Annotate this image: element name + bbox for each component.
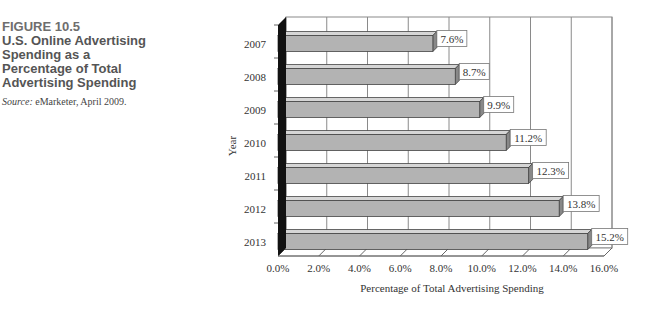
bar-top — [278, 98, 484, 102]
bar-side — [559, 197, 563, 217]
x-tick-label: 8.0% — [430, 262, 453, 274]
bar-top — [278, 32, 437, 36]
bar-group: 8.7% — [278, 64, 489, 85]
bar-top — [278, 131, 510, 135]
bar — [278, 102, 480, 118]
left-wall — [278, 17, 286, 256]
bar-chart: 7.6%8.7%9.9%11.2%12.3%13.8%15.2% 0.0%2.0… — [0, 0, 656, 311]
bar-group: 9.9% — [278, 97, 514, 118]
bar-group: 11.2% — [278, 130, 546, 151]
y-tick-label: 2009 — [244, 104, 267, 116]
bar — [278, 234, 588, 250]
y-tick-label: 2010 — [244, 137, 267, 149]
bar-group: 12.3% — [278, 163, 569, 184]
y-tick-label: 2011 — [244, 170, 266, 182]
value-label: 11.2% — [514, 132, 542, 144]
bar-side — [480, 98, 484, 118]
value-label: 15.2% — [595, 231, 623, 243]
x-tick-label: 2.0% — [307, 262, 330, 274]
bar-side — [455, 65, 459, 85]
bar-group: 15.2% — [278, 229, 628, 250]
value-label: 13.8% — [567, 198, 595, 210]
value-label: 9.9% — [487, 99, 510, 111]
y-tick-label: 2013 — [244, 236, 267, 248]
y-axis-label: Year — [226, 136, 238, 157]
bar — [278, 135, 506, 151]
bar-top — [278, 230, 592, 234]
bar-side — [433, 32, 437, 52]
value-label: 12.3% — [536, 165, 564, 177]
x-tick-label: 10.0% — [468, 262, 496, 274]
bar-top — [278, 65, 459, 69]
x-tick-label: 6.0% — [389, 262, 412, 274]
x-tick-label: 14.0% — [549, 262, 577, 274]
x-tick-label: 12.0% — [508, 262, 536, 274]
x-axis-label: Percentage of Total Advertising Spending — [360, 282, 544, 294]
bar-side — [529, 164, 533, 184]
bar — [278, 201, 559, 217]
bar-side — [506, 131, 510, 151]
bar — [278, 36, 433, 52]
y-tick-label: 2012 — [244, 203, 266, 215]
bar — [278, 69, 455, 85]
x-tick-label: 4.0% — [348, 262, 371, 274]
y-tick-label: 2008 — [244, 71, 267, 83]
bar-side — [588, 230, 592, 250]
bar-top — [278, 164, 533, 168]
x-tick-label: 16.0% — [590, 262, 618, 274]
value-label: 8.7% — [463, 66, 486, 78]
x-tick-label: 0.0% — [267, 262, 290, 274]
bar — [278, 168, 529, 184]
value-label: 7.6% — [440, 33, 463, 45]
bar-group: 13.8% — [278, 196, 599, 217]
bar-top — [278, 197, 563, 201]
y-tick-label: 2007 — [244, 38, 267, 50]
